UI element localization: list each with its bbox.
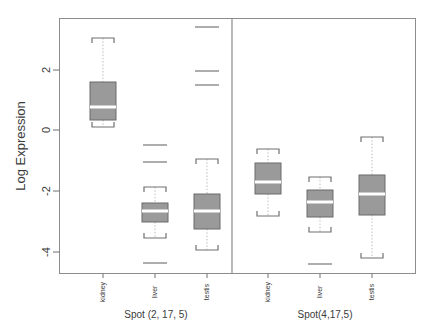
x-tick-label-liver: liver (316, 285, 323, 299)
panel-spot-2-17-5: kidney liver testis Spot (2, 17, 5) (90, 27, 220, 320)
box-rect (90, 82, 116, 120)
box-panel2-kidney (255, 149, 281, 216)
boxplot-figure: 2 0 -2 -4 Log Expression (0, 0, 433, 335)
panel-label-2: Spot(4,17,5) (297, 309, 352, 320)
x-tick-label-testis: testis (368, 283, 375, 300)
box-panel2-testis (359, 137, 385, 258)
box-rect (255, 163, 281, 194)
x-tick-label-liver: liver (151, 285, 158, 299)
y-axis: 2 0 -2 -4 (40, 67, 60, 257)
x-tick-label-kidney: kidney (99, 281, 107, 302)
y-tick-label-neg2: -2 (40, 186, 52, 196)
y-tick-label-2: 2 (40, 67, 52, 73)
chart-container: 2 0 -2 -4 Log Expression (0, 0, 433, 335)
box-panel2-liver (307, 177, 333, 264)
box-panel1-liver (142, 145, 168, 263)
y-tick-label-neg4: -4 (40, 247, 52, 257)
x-tick-label-testis: testis (203, 283, 210, 300)
panel-label-1: Spot (2, 17, 5) (124, 309, 187, 320)
panel-spot-4-17-5: kidney liver testis Spot(4,17,5) (255, 137, 385, 320)
x-tick-label-kidney: kidney (264, 281, 272, 302)
box-panel1-testis (194, 27, 220, 250)
y-tick-label-0: 0 (40, 127, 52, 133)
y-axis-title: Log Expression (13, 101, 28, 191)
plot-frame (60, 19, 416, 274)
box-panel1-kidney (90, 38, 116, 127)
